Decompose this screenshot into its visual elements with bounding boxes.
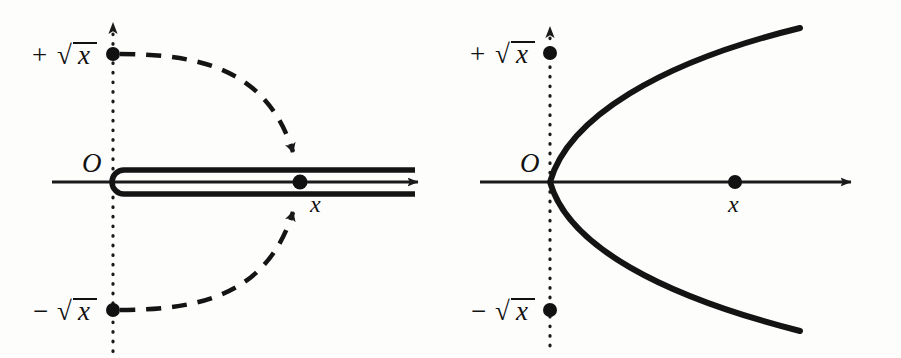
left-plus-sqrt-x-label: + √ x bbox=[32, 40, 97, 70]
figure-root: + √ x − √ x O x bbox=[0, 0, 901, 358]
right-panel-group: + √ x − √ x O x bbox=[470, 26, 851, 352]
right-x-label: x bbox=[727, 191, 739, 217]
right-origin-label: O bbox=[520, 148, 540, 178]
left-origin-label: O bbox=[82, 148, 102, 178]
right-minus-sqrt-x-label: − √ x bbox=[471, 296, 535, 326]
math-figure-canvas: + √ x − √ x O x bbox=[0, 0, 901, 358]
left-imaginary-axis-arrowhead bbox=[108, 22, 117, 34]
left-plus-sqrt-x-point bbox=[106, 47, 120, 61]
left-panel-group: + √ x − √ x O x bbox=[32, 22, 418, 352]
sqrt-image-parabola bbox=[550, 28, 800, 331]
right-radical-glyph: √ bbox=[495, 39, 510, 69]
right-minus-sqrt-x-point bbox=[543, 303, 557, 317]
right-plus-sqrt-x-label: + √ x bbox=[470, 39, 535, 69]
left-radicand: x bbox=[77, 40, 90, 70]
right-radical-glyph-neg: √ bbox=[495, 296, 510, 326]
left-plus-sign: + bbox=[32, 40, 47, 70]
right-imaginary-axis-arrowhead bbox=[545, 26, 554, 38]
right-radicand-neg: x bbox=[515, 296, 528, 326]
right-plus-sign: + bbox=[470, 39, 485, 69]
left-x-point bbox=[293, 175, 308, 190]
left-x-label: x bbox=[309, 191, 321, 217]
right-plus-sqrt-x-point bbox=[543, 46, 557, 60]
left-minus-sqrt-x-label: − √ x bbox=[33, 296, 97, 326]
upper-approach-arc bbox=[120, 54, 293, 152]
left-radical-glyph: √ bbox=[57, 40, 72, 70]
left-radicand-neg: x bbox=[77, 296, 90, 326]
lower-approach-arc bbox=[120, 212, 293, 310]
left-minus-sqrt-x-point bbox=[106, 303, 120, 317]
right-minus-sign: − bbox=[471, 296, 486, 326]
left-radical-glyph-neg: √ bbox=[57, 296, 72, 326]
right-radicand: x bbox=[515, 39, 528, 69]
left-minus-sign: − bbox=[33, 296, 48, 326]
right-x-point bbox=[728, 175, 742, 189]
